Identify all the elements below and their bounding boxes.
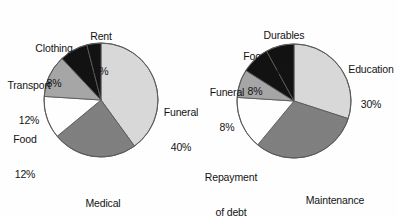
right-label-repayment-name: Repayment bbox=[200, 172, 262, 184]
left-label-medical-name: Medical bbox=[72, 198, 134, 210]
right-label-funeral-name: Funeral bbox=[203, 87, 251, 99]
right-label-maintenance-name: Maintenance bbox=[299, 195, 371, 207]
left-label-rent-value: 4% bbox=[78, 66, 124, 78]
left-label-funeral-name: Funeral bbox=[159, 107, 203, 119]
right-label-education: Education 30% bbox=[345, 41, 397, 133]
right-label-repayment-name2: of debt bbox=[200, 207, 262, 219]
left-label-funeral: Funeral 40% bbox=[159, 84, 203, 176]
left-label-food: Food 12% bbox=[4, 111, 46, 203]
left-label-medical-expenses: Medical expenses 24% bbox=[72, 175, 134, 218]
right-label-education-name: Education bbox=[345, 64, 397, 76]
left-label-rent: Rent 4% bbox=[78, 8, 124, 100]
two-pie-chart-figure: Rent 4% Clothing 8% Transport 12% Food 1… bbox=[0, 0, 398, 218]
left-label-rent-name: Rent bbox=[78, 31, 124, 43]
right-label-funeral-value: 8% bbox=[203, 122, 251, 134]
left-label-funeral-value: 40% bbox=[159, 142, 203, 154]
left-label-transport-name: Transport bbox=[1, 80, 57, 92]
left-label-food-value: 12% bbox=[4, 169, 46, 181]
left-label-clothing-name: Clothing bbox=[27, 43, 81, 55]
right-label-funeral: Funeral 8% bbox=[203, 64, 251, 156]
right-label-food-name: Food bbox=[234, 51, 276, 63]
left-label-food-name: Food bbox=[4, 134, 46, 146]
right-label-education-value: 30% bbox=[345, 99, 397, 111]
right-label-maintenance-of-assets: Maintenance of assets 31% bbox=[299, 172, 371, 218]
right-label-repayment-of-debt: Repayment of debt 15% bbox=[200, 149, 262, 218]
